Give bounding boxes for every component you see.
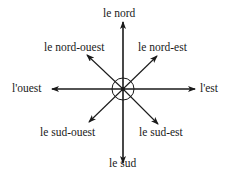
label-northeast: le nord-est [138, 42, 187, 54]
label-southwest: le sud-ouest [40, 127, 95, 139]
label-west: l'ouest [12, 83, 42, 95]
label-north: le nord [103, 8, 135, 20]
arrow-northeast [123, 56, 157, 89]
label-south: le sud [109, 158, 136, 170]
label-northwest: le nord-ouest [44, 42, 104, 54]
label-southeast: le sud-est [139, 127, 183, 139]
arrow-southwest [89, 89, 123, 122]
arrow-southeast [123, 89, 158, 124]
arrow-northwest [87, 55, 123, 89]
label-east: l'est [200, 83, 218, 95]
